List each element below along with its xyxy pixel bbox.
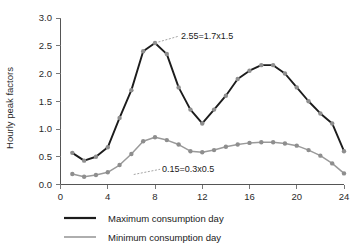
data-point-marker	[295, 143, 299, 147]
data-point-marker	[165, 52, 169, 56]
series-maximum-consumption-day	[70, 41, 346, 163]
legend-item[interactable]: Maximum consumption day	[64, 213, 224, 224]
y-tick-label: 0.5	[39, 151, 52, 162]
data-point-marker	[330, 121, 334, 125]
data-point-marker	[188, 149, 192, 153]
data-point-marker	[129, 152, 133, 156]
data-point-marker	[117, 163, 121, 167]
x-tick-label: 8	[152, 191, 157, 202]
data-point-marker	[283, 71, 287, 75]
x-tick-label: 0	[58, 191, 63, 202]
legend-label: Maximum consumption day	[108, 213, 224, 224]
x-tick-label: 24	[339, 191, 350, 202]
data-point-marker	[129, 88, 133, 92]
data-point-marker	[224, 145, 228, 149]
y-tick-label: 2.5	[39, 40, 52, 51]
annotation-label: 2.55=1.7x1.5	[181, 31, 233, 41]
data-point-marker	[82, 158, 86, 162]
data-point-marker	[141, 139, 145, 143]
data-point-marker	[188, 107, 192, 111]
data-point-marker	[342, 149, 346, 153]
y-axis-ticks: 0.00.51.01.52.02.53.0	[39, 12, 61, 190]
data-point-marker	[295, 85, 299, 89]
data-point-marker	[153, 135, 157, 139]
data-point-marker	[200, 121, 204, 125]
data-point-marker	[94, 155, 98, 159]
data-point-marker	[342, 171, 346, 175]
axes-group	[61, 18, 345, 185]
data-point-marker	[247, 141, 251, 145]
x-tick-label: 12	[197, 191, 208, 202]
data-point-marker	[318, 111, 322, 115]
y-axis-title-text: Hourly peak factors	[4, 67, 15, 149]
data-series-layer	[70, 41, 346, 179]
data-point-marker	[212, 107, 216, 111]
x-tick-label: 16	[244, 191, 255, 202]
chart-container: Hourly peak factors 0.00.51.01.52.02.53.…	[0, 0, 356, 252]
annotation-layer: 2.55=1.7x1.50.15=0.3x0.5	[134, 31, 234, 174]
data-point-marker	[94, 173, 98, 177]
chart-legend: Maximum consumption dayMinimum consumpti…	[64, 213, 224, 243]
annotation-leader-line	[134, 169, 160, 174]
data-point-marker	[70, 172, 74, 176]
data-point-marker	[271, 63, 275, 67]
legend-item[interactable]: Minimum consumption day	[64, 232, 221, 243]
x-axis-ticks: 04812162024	[58, 185, 349, 203]
annotation-peak-max: 2.55=1.7x1.5	[155, 31, 233, 43]
series-line	[72, 43, 344, 161]
y-tick-label: 2.0	[39, 68, 52, 79]
data-point-marker	[259, 140, 263, 144]
annotation-label: 0.15=0.3x0.5	[162, 164, 214, 174]
y-tick-label: 1.5	[39, 96, 52, 107]
data-point-marker	[235, 142, 239, 146]
data-point-marker	[70, 151, 74, 155]
data-point-marker	[117, 116, 121, 120]
data-point-marker	[82, 175, 86, 179]
data-point-marker	[106, 145, 110, 149]
data-point-marker	[141, 49, 145, 53]
data-point-marker	[235, 77, 239, 81]
x-tick-label: 20	[291, 191, 302, 202]
data-point-marker	[259, 63, 263, 67]
y-tick-label: 3.0	[39, 12, 52, 23]
data-point-marker	[106, 170, 110, 174]
data-point-marker	[224, 94, 228, 98]
data-point-marker	[176, 85, 180, 89]
data-point-marker	[176, 142, 180, 146]
y-tick-label: 1.0	[39, 123, 52, 134]
legend-label: Minimum consumption day	[108, 232, 221, 243]
data-point-marker	[271, 140, 275, 144]
hourly-peak-factors-line-chart: Hourly peak factors 0.00.51.01.52.02.53.…	[0, 0, 356, 252]
y-axis-title: Hourly peak factors	[4, 67, 15, 149]
data-point-marker	[306, 148, 310, 152]
data-point-marker	[306, 99, 310, 103]
data-point-marker	[330, 161, 334, 165]
data-point-marker	[165, 138, 169, 142]
annotation-leader-line	[155, 36, 179, 43]
data-point-marker	[318, 153, 322, 157]
data-point-marker	[200, 150, 204, 154]
x-tick-label: 4	[105, 191, 110, 202]
annotation-peak-min: 0.15=0.3x0.5	[134, 164, 215, 174]
data-point-marker	[212, 148, 216, 152]
data-point-marker	[283, 141, 287, 145]
data-point-marker	[247, 69, 251, 73]
y-tick-label: 0.0	[39, 179, 52, 190]
